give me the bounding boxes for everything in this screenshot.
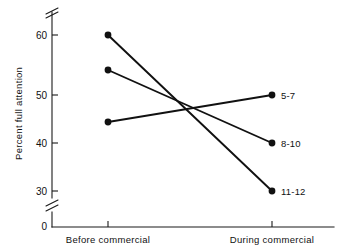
x-axis: [52, 221, 334, 227]
y-tick-label-zero: 0: [41, 221, 47, 232]
series-line-11-12: [108, 35, 272, 191]
y-axis-break-bottom-icon-2: [46, 205, 58, 211]
chart-canvas: 60 50 40 30 0 Percent full attention Bef…: [0, 0, 339, 249]
series-line-5-7: [108, 95, 272, 122]
series-label-11-12: 11-12: [281, 186, 306, 197]
y-axis-break-bottom-icon: [46, 200, 58, 206]
data-point-11-12-before: [105, 32, 112, 39]
series-5-7: 5-7: [105, 90, 296, 125]
y-tick-labels: 60 50 40 30 0: [36, 30, 48, 232]
data-point-11-12-during: [269, 188, 276, 195]
y-axis: [46, 8, 58, 227]
data-point-8-10-during: [269, 140, 276, 147]
series-11-12: 11-12: [105, 32, 306, 197]
x-label-during-commercial: During commercial: [230, 234, 314, 245]
y-tick-marks: [52, 35, 58, 191]
series-label-8-10: 8-10: [281, 138, 301, 149]
data-point-8-10-before: [105, 67, 112, 74]
y-tick-label-50: 50: [36, 90, 48, 101]
series-8-10: 8-10: [105, 67, 301, 149]
y-tick-label-60: 60: [36, 30, 48, 41]
data-point-5-7-before: [105, 119, 112, 126]
series-label-5-7: 5-7: [281, 90, 295, 101]
series-line-8-10: [108, 70, 272, 143]
line-chart: 60 50 40 30 0 Percent full attention Bef…: [0, 0, 339, 249]
y-tick-label-40: 40: [36, 138, 48, 149]
y-tick-label-30: 30: [36, 186, 48, 197]
y-axis-title: Percent full attention: [13, 67, 24, 160]
data-point-5-7-during: [269, 92, 276, 99]
x-label-before-commercial: Before commercial: [66, 234, 150, 245]
